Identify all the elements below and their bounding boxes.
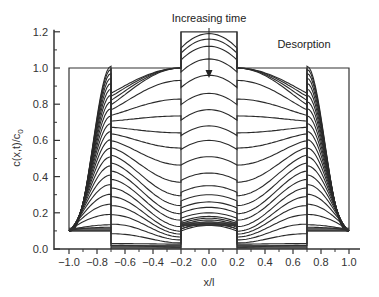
y-tick-label: 0.4 [33,171,48,183]
x-tick-label: −1.0 [58,256,80,268]
x-tick-label: 0.4 [257,256,272,268]
y-tick-label: 1.2 [33,26,48,38]
x-tick-label: 1.0 [341,256,356,268]
increasing-time-label: Increasing time [172,12,247,24]
x-axis-title: x/l [204,276,215,288]
x-tick-label: −0.2 [170,256,192,268]
desorption-label: Desorption [277,38,330,50]
y-axis-title: c(x,t)/c0 [10,129,25,167]
x-tick-label: 0.6 [285,256,300,268]
y-tick-label: 0.2 [33,207,48,219]
x-tick-label: −0.8 [86,256,108,268]
y-tick-label: 0.6 [33,134,48,146]
x-tick-label: −0.6 [114,256,136,268]
increasing-time-arrow-icon [206,28,213,78]
chart: 0.00.20.40.60.81.01.2−1.0−0.8−0.6−0.4−0.… [0,0,379,297]
y-tick-label: 0.0 [33,243,48,255]
x-tick-label: 0.2 [229,256,244,268]
x-tick-label: −0.4 [142,256,164,268]
x-tick-label: 0.0 [201,256,216,268]
y-tick-label: 1.0 [33,62,48,74]
x-tick-label: 0.8 [313,256,328,268]
y-tick-label: 0.8 [33,98,48,110]
